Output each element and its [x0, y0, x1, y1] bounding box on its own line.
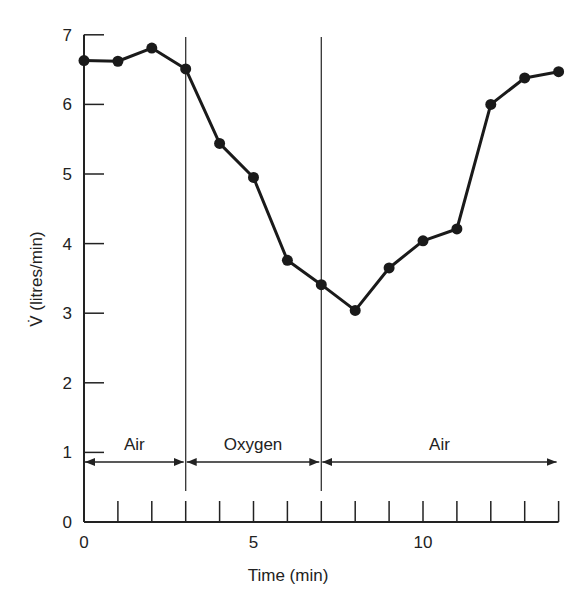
data-point: [451, 223, 462, 234]
y-tick-label: 7: [63, 26, 72, 45]
data-point: [485, 99, 496, 110]
x-tick-label: 10: [414, 533, 433, 552]
data-point: [79, 55, 90, 66]
phase-label: Oxygen: [224, 435, 283, 454]
data-point: [384, 262, 395, 273]
ventilation-chart: 01234567 0510 AirOxygenAir V̇ (litres/mi…: [0, 0, 587, 615]
x-tick-label: 0: [79, 533, 88, 552]
data-point: [282, 255, 293, 266]
x-axis: 0510: [79, 501, 558, 552]
phase-label: Air: [429, 435, 450, 454]
data-point: [146, 43, 157, 54]
data-point: [418, 235, 429, 246]
vertical-markers: [186, 37, 322, 491]
y-tick-label: 6: [63, 95, 72, 114]
y-tick-label: 5: [63, 165, 72, 184]
data-point: [519, 72, 530, 83]
y-axis-label: V̇ (litres/min): [27, 231, 46, 326]
y-tick-label: 2: [63, 374, 72, 393]
y-tick-label: 4: [63, 235, 72, 254]
y-tick-label: 3: [63, 304, 72, 323]
data-point: [553, 66, 564, 77]
data-point: [214, 138, 225, 149]
y-axis: 01234567: [63, 26, 104, 532]
x-axis-label: Time (min): [248, 566, 329, 585]
y-tick-label: 1: [63, 443, 72, 462]
x-tick-label: 5: [249, 533, 258, 552]
data-point: [316, 279, 327, 290]
data-point: [112, 56, 123, 67]
data-point: [180, 63, 191, 74]
data-point: [350, 305, 361, 316]
phase-label: Air: [124, 435, 145, 454]
data-point: [248, 172, 259, 183]
y-tick-label: 0: [63, 513, 72, 532]
